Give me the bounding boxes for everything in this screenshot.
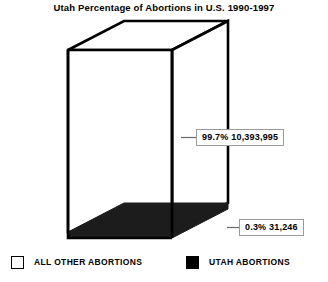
legend-swatch-all-other-abortions: [11, 256, 24, 269]
column-other-side-face: [172, 21, 228, 232]
legend-item-all-other-abortions: ALL OTHER ABORTIONS: [11, 254, 142, 270]
legend-label-utah-abortions: UTAH ABORTIONS: [209, 257, 290, 267]
legend-swatch-utah-abortions: [186, 256, 199, 269]
legend-item-utah-abortions: UTAH ABORTIONS: [186, 254, 290, 270]
legend-label-all-other-abortions: ALL OTHER ABORTIONS: [34, 257, 142, 267]
chart-legend: ALL OTHER ABORTIONS UTAH ABORTIONS: [0, 254, 328, 274]
chart-container: Utah Percentage of Abortions in U.S. 199…: [0, 0, 328, 282]
callout-all-other-abortions: 99.7% 10,393,995: [196, 129, 284, 146]
callout-utah-abortions: 0.3% 31,246: [239, 219, 304, 236]
